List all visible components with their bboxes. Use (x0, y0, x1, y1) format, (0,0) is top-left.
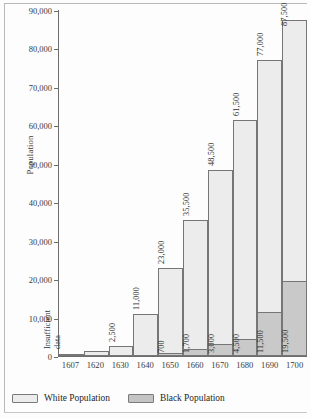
y-tick-mark (54, 357, 58, 358)
plot-area: 010,00020,00030,00040,00050,00060,00070,… (58, 10, 307, 357)
y-tick-mark (54, 280, 58, 281)
y-tick-label: 20,000 (29, 275, 52, 285)
figure-frame-left (4, 3, 5, 413)
bar-segment-black-1650[interactable] (158, 353, 183, 356)
bar-value-label-white-1640: 11,000 (132, 287, 141, 310)
x-tick-label-1607: 1607 (58, 360, 83, 370)
y-tick-mark (54, 126, 58, 127)
y-tick-label: 70,000 (29, 83, 52, 93)
bar-value-label-white-1700: 87,500 (280, 2, 289, 25)
legend-swatch-black (128, 394, 154, 403)
x-tick-label-1700: 1700 (282, 360, 307, 370)
bar-value-label-white-1607: Insufficientdata (43, 287, 62, 349)
y-tick-label: 30,000 (29, 237, 52, 247)
population-bar-chart-figure: Population 010,00020,00030,00040,00050,0… (0, 0, 311, 419)
bar-value-label-white-1650: 23,000 (157, 240, 166, 263)
bar-value-label-white-1630: 2,500 (108, 323, 117, 342)
y-tick-label: 50,000 (29, 160, 52, 170)
legend-label: Black Population (160, 393, 225, 403)
bar-value-label-black-1660: 1,700 (182, 334, 191, 353)
y-tick-mark (54, 88, 58, 89)
legend-item-white[interactable]: White Population (12, 393, 110, 403)
legend-swatch-white (12, 394, 38, 403)
y-tick-label: 0 (48, 352, 52, 362)
y-tick-label: 90,000 (29, 6, 52, 16)
y-tick-mark (54, 49, 58, 50)
y-tick-mark (54, 165, 58, 166)
y-tick-mark (54, 11, 58, 12)
bar-value-label-black-1670: 3,000 (207, 334, 216, 353)
x-tick-label-1640: 1640 (133, 360, 158, 370)
bar-value-label-black-1700: 19,500 (281, 330, 290, 353)
x-axis-line (58, 356, 307, 357)
x-tick-label-1670: 1670 (207, 360, 232, 370)
bar-column-1680[interactable]: 61,5004,500 (233, 10, 258, 356)
figure-frame-top (4, 3, 307, 4)
x-tick-label-1660: 1660 (183, 360, 208, 370)
bar-segment-white-1640[interactable] (133, 314, 158, 356)
bar-segment-white-1630[interactable] (109, 346, 134, 356)
bar-column-1650[interactable]: 23,000700 (158, 10, 183, 356)
bar-column-1660[interactable]: 35,5001,700 (183, 10, 208, 356)
bar-column-1690[interactable]: 77,00011,500 (257, 10, 282, 356)
x-tick-label-1630: 1630 (108, 360, 133, 370)
bar-value-label-black-1680: 4,500 (232, 334, 241, 353)
bar-column-1670[interactable]: 48,5003,000 (208, 10, 233, 356)
bar-segment-white-1670[interactable] (208, 170, 233, 356)
bar-column-1700[interactable]: 87,50019,500 (282, 10, 307, 356)
bar-value-label-white-1670: 48,500 (207, 142, 216, 165)
y-tick-label: 80,000 (29, 44, 52, 54)
bar-value-label-white-1680: 61,500 (232, 92, 241, 115)
bar-column-1640[interactable]: 11,000 (133, 10, 158, 356)
figure-frame-bottom (4, 412, 307, 413)
x-tick-label-1690: 1690 (257, 360, 282, 370)
y-tick-mark (54, 203, 58, 204)
chart-legend: White PopulationBlack Population (12, 393, 225, 403)
x-tick-label-1680: 1680 (232, 360, 257, 370)
bar-value-label-black-1650: 700 (157, 340, 166, 353)
bar-group: Insufficientdata2,50011,00023,00070035,5… (59, 10, 307, 356)
y-tick-label: 60,000 (29, 121, 52, 131)
bar-value-label-white-1690: 77,000 (256, 33, 265, 56)
bar-segment-white-1620[interactable] (84, 351, 109, 356)
bar-segment-white-1680[interactable] (233, 120, 258, 356)
bar-segment-white-1607[interactable] (59, 354, 84, 356)
bar-column-1620[interactable] (84, 10, 109, 356)
bar-column-1630[interactable]: 2,500 (109, 10, 134, 356)
x-tick-label-1620: 1620 (83, 360, 108, 370)
legend-item-black[interactable]: Black Population (128, 393, 225, 403)
y-axis-title: Population (25, 95, 35, 215)
y-tick-mark (54, 242, 58, 243)
x-tick-label-1650: 1650 (158, 360, 183, 370)
bar-value-label-black-1690: 11,500 (256, 330, 265, 353)
legend-label: White Population (44, 393, 110, 403)
bar-value-label-white-1660: 35,500 (182, 192, 191, 215)
y-tick-label: 40,000 (29, 198, 52, 208)
bar-column-1607[interactable]: Insufficientdata (59, 10, 84, 356)
x-axis-tick-labels: 1607162016301640165016601670168016901700 (58, 360, 307, 370)
